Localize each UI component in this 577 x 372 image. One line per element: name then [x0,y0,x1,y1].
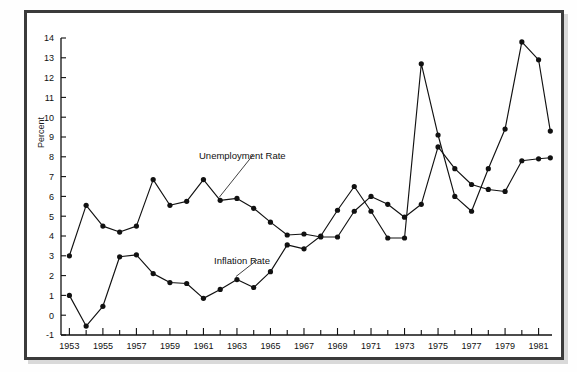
data-point-unemployment [201,177,206,182]
data-point-unemployment [385,202,390,207]
data-point-inflation [519,39,524,44]
plot-area: -101234567891011121314195319551957195919… [24,10,564,360]
y-tick-label: 7 [49,172,54,182]
data-point-unemployment [519,158,524,163]
data-point-inflation [502,126,507,131]
x-tick-label: 1977 [462,341,482,351]
data-point-inflation [335,208,340,213]
data-point-inflation [435,132,440,137]
inflation-series-label: Inflation Rate [214,255,270,266]
data-point-unemployment [184,199,189,204]
data-point-inflation [67,293,72,298]
x-tick-label: 1967 [294,341,314,351]
x-tick-label: 1965 [260,341,280,351]
y-axis-label: Percent [36,68,46,148]
unemployment-leader-line [219,155,253,197]
series-line-inflation [69,42,550,326]
data-point-inflation [251,285,256,290]
data-point-unemployment [486,187,491,192]
y-tick-label: -1 [46,330,54,340]
y-tick-label: 1 [49,291,54,301]
data-point-inflation [486,166,491,171]
data-point-inflation [201,296,206,301]
data-point-unemployment [452,166,457,171]
x-tick-label: 1975 [428,341,448,351]
data-point-inflation [419,61,424,66]
data-point-unemployment [100,224,105,229]
data-point-unemployment [234,196,239,201]
data-point-unemployment [251,206,256,211]
data-point-unemployment [435,144,440,149]
data-point-unemployment [469,182,474,187]
y-tick-label: 11 [45,93,54,103]
data-point-unemployment [268,220,273,225]
y-tick-label: 2 [49,271,54,281]
x-tick-label: 1959 [160,341,180,351]
data-point-inflation [84,323,89,328]
data-point-inflation [100,304,105,309]
data-point-inflation [536,57,541,62]
x-tick-label: 1971 [361,341,381,351]
x-tick-label: 1957 [126,341,146,351]
data-point-unemployment [67,253,72,258]
y-tick-label: 13 [44,53,54,63]
y-tick-label: 6 [49,192,54,202]
data-point-inflation [285,242,290,247]
data-point-unemployment [419,202,424,207]
data-point-inflation [151,271,156,276]
data-point-inflation [184,281,189,286]
data-point-unemployment [368,194,373,199]
figure-root: -101234567891011121314195319551957195919… [0,0,577,372]
y-tick-label: 4 [49,231,54,241]
x-tick-label: 1953 [59,341,79,351]
x-tick-label: 1981 [529,341,549,351]
data-point-inflation [385,235,390,240]
data-point-inflation [469,209,474,214]
x-tick-label: 1955 [93,341,113,351]
x-tick-label: 1969 [327,341,347,351]
y-tick-label: 8 [49,152,54,162]
x-tick-label: 1979 [495,341,515,351]
y-tick-label: 9 [49,132,54,142]
x-tick-label: 1961 [193,341,213,351]
data-point-inflation [268,269,273,274]
y-tick-label: 3 [49,251,54,261]
data-point-inflation [368,209,373,214]
data-point-inflation [352,184,357,189]
data-point-unemployment [548,155,553,160]
unemployment-series-label: Unemployment Rate [199,150,286,161]
chart-svg: -101234567891011121314195319551957195919… [24,10,564,360]
x-tick-label: 1963 [227,341,247,351]
data-point-unemployment [536,156,541,161]
data-point-inflation [402,235,407,240]
data-point-unemployment [502,189,507,194]
data-point-inflation [218,287,223,292]
data-point-unemployment [301,231,306,236]
data-point-inflation [548,128,553,133]
data-point-unemployment [285,232,290,237]
data-point-inflation [452,194,457,199]
data-point-unemployment [134,224,139,229]
clipped-caption [0,0,577,9]
data-point-unemployment [84,203,89,208]
y-tick-label: 0 [49,311,54,321]
data-point-unemployment [218,198,223,203]
data-point-unemployment [151,177,156,182]
series-line-unemployment [69,147,550,256]
data-point-inflation [234,277,239,282]
data-point-inflation [117,254,122,259]
y-tick-label: 14 [44,33,54,43]
data-point-unemployment [352,209,357,214]
data-point-inflation [318,233,323,238]
data-point-unemployment [117,229,122,234]
data-point-unemployment [167,203,172,208]
data-point-inflation [167,280,172,285]
y-tick-label: 5 [49,212,54,222]
data-point-unemployment [335,234,340,239]
data-point-inflation [134,252,139,257]
data-point-inflation [301,246,306,251]
x-tick-label: 1973 [395,341,415,351]
